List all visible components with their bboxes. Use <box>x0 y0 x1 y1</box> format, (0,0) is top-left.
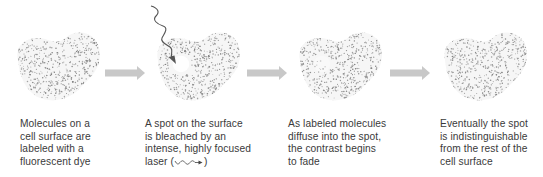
caption-step-4: Eventually the spot is indistinguishable… <box>440 118 528 168</box>
frap-diagram: Molecules on a cell surface are labeled … <box>0 0 543 177</box>
cell-recovered-icon <box>434 25 531 104</box>
caption-line: cell surface <box>440 156 528 169</box>
caption-line: As labeled molecules <box>288 118 386 131</box>
caption-line: to fade <box>288 156 386 169</box>
caption-text: laser ( <box>145 156 174 167</box>
caption-line: is indistinguishable <box>440 131 528 144</box>
step-arrow-icon <box>390 66 430 80</box>
step-arrow-icon <box>247 66 287 80</box>
caption-step-2: A spot on the surface is bleached by an … <box>145 118 251 168</box>
step-arrow-icon <box>105 66 145 80</box>
caption-line: intense, highly focused <box>145 143 251 156</box>
caption-step-1: Molecules on a cell surface are labeled … <box>20 118 91 168</box>
caption-line: Molecules on a <box>20 118 91 131</box>
cell-fading-spot-icon <box>289 25 386 104</box>
caption-line: fluorescent dye <box>20 156 91 169</box>
caption-line: A spot on the surface <box>145 118 251 131</box>
laser-wave-icon <box>174 158 204 167</box>
caption-line: from the rest of the <box>440 143 528 156</box>
cell-labeled-icon <box>7 25 104 104</box>
caption-line: diffuse into the spot, <box>288 131 386 144</box>
caption-step-3: As labeled molecules diffuse into the sp… <box>288 118 386 168</box>
caption-line: Eventually the spot <box>440 118 528 131</box>
caption-line: labeled with a <box>20 143 91 156</box>
caption-line: the contrast begins <box>288 143 386 156</box>
caption-line: cell surface are <box>20 131 91 144</box>
caption-line-with-icon: laser () <box>145 156 251 169</box>
caption-line: is bleached by an <box>145 131 251 144</box>
caption-text: ) <box>204 156 208 167</box>
